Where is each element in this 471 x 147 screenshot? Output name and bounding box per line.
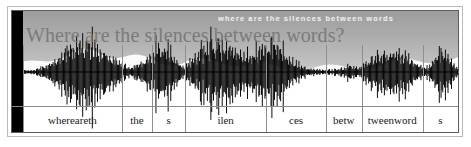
waveform-sample: [173, 63, 174, 82]
waveform-sample: [40, 69, 41, 77]
waveform-sample: [399, 48, 400, 102]
waveform-sample: [68, 50, 69, 97]
waveform-sample: [319, 70, 320, 74]
waveform-sample: [291, 65, 292, 79]
waveform-sample: [38, 70, 39, 75]
waveform-sample: [144, 64, 145, 81]
waveform-plot-area[interactable]: where are the silences between words Whe…: [12, 11, 458, 132]
waveform-sample: [42, 66, 43, 76]
waveform-sample: [455, 69, 456, 75]
waveform-sample: [70, 45, 71, 103]
waveform-sample: [165, 52, 166, 90]
waveform-sample: [388, 60, 389, 87]
waveform-sample: [75, 52, 76, 95]
waveform-sample: [159, 48, 160, 93]
waveform-sample: [393, 54, 394, 95]
waveform-sample: [356, 66, 357, 77]
waveform-sample: [318, 71, 319, 74]
segment-cell[interactable]: betw: [326, 107, 362, 132]
waveform-sample: [351, 67, 352, 78]
waveform-sample: [112, 64, 113, 82]
waveform-sample: [282, 61, 283, 84]
segment-cell[interactable]: the: [122, 107, 152, 132]
waveform-sample: [171, 57, 172, 91]
waveform-sample: [395, 57, 396, 85]
waveform-sample: [363, 63, 364, 81]
waveform-sample: [302, 68, 303, 76]
segmentation-tier[interactable]: whereareththesilencesbetwtweenwords: [12, 106, 458, 132]
waveform-sample: [149, 54, 150, 89]
waveform-sample: [230, 56, 231, 89]
waveform-sample: [398, 54, 399, 87]
segment-cell[interactable]: ces: [266, 107, 326, 132]
waveform-sample: [95, 48, 96, 94]
waveform-sample: [202, 49, 203, 93]
segment-cell[interactable]: ilen: [185, 107, 266, 132]
waveform-sample: [150, 56, 151, 90]
segment-cell[interactable]: s: [152, 107, 185, 132]
waveform-sample: [392, 57, 393, 87]
waveform-sample: [262, 44, 263, 107]
waveform-sample: [126, 68, 127, 75]
segment-cell[interactable]: tweenword: [362, 107, 423, 132]
waveform-sample: [224, 54, 225, 92]
waveform-sample: [320, 70, 321, 73]
waveform-sample: [54, 59, 55, 86]
waveform-sample: [58, 59, 59, 84]
waveform-sample: [357, 69, 358, 75]
waveform-sample: [98, 56, 99, 88]
waveform-sample: [257, 57, 258, 85]
waveform-sample: [115, 58, 116, 88]
waveform-sample: [160, 57, 161, 91]
waveform-sample: [335, 69, 336, 76]
waveform-sample: [229, 47, 230, 98]
waveform-sample: [283, 41, 284, 113]
waveform-sample: [269, 52, 270, 94]
waveform-sample: [246, 58, 247, 87]
waveform-sample: [100, 49, 101, 99]
waveform-sample: [285, 60, 286, 88]
waveform-sample: [278, 46, 279, 96]
waveform-sample: [429, 64, 430, 81]
waveform-sample: [424, 68, 425, 76]
waveform-sample: [397, 60, 398, 84]
waveform-sample: [307, 69, 308, 75]
waveform-sample: [191, 61, 192, 82]
waveform-sample: [251, 64, 252, 82]
waveform-sample: [340, 68, 341, 76]
waveform-sample: [178, 65, 179, 80]
waveform-sample: [146, 60, 147, 84]
waveform-sample: [425, 69, 426, 74]
waveform-sample: [430, 67, 431, 77]
waveform-sample: [110, 60, 111, 86]
waveform-sample: [235, 48, 236, 98]
segment-label: the: [130, 114, 143, 126]
waveform-sample: [251, 58, 252, 86]
waveform-sample: [97, 44, 98, 102]
waveform-sample: [220, 53, 221, 89]
segment-cell[interactable]: whereareth: [23, 107, 122, 132]
segment-cell[interactable]: s: [423, 107, 458, 132]
waveform-sample: [206, 55, 207, 88]
waveform-sample: [342, 70, 343, 74]
waveform-sample: [46, 65, 47, 78]
waveform-sample: [353, 66, 354, 79]
figure-root: where are the silences between words Whe…: [0, 0, 471, 147]
waveform-sample: [158, 43, 159, 99]
waveform-sample: [312, 70, 313, 75]
waveform-sample: [271, 38, 272, 107]
waveform-sample: [133, 69, 134, 75]
segment-label: ilen: [217, 114, 234, 126]
waveform-sample: [71, 49, 72, 99]
waveform-sample: [87, 43, 88, 108]
waveform-sample: [381, 56, 382, 93]
waveform-sample: [208, 55, 209, 88]
waveform-sample: [456, 67, 457, 78]
waveform-sample: [212, 50, 213, 94]
waveform-sample: [211, 39, 212, 112]
waveform-sample: [264, 56, 265, 88]
waveform-sample: [199, 61, 200, 82]
waveform-sample: [127, 69, 128, 76]
waveform-sample: [445, 50, 446, 101]
waveform-sample: [148, 63, 149, 82]
